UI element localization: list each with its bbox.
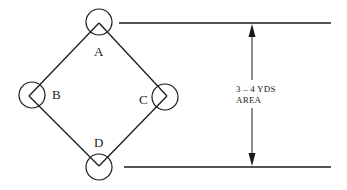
station-label-a: A [94,44,104,59]
station-label-c: C [139,92,148,107]
arrow-head-down-icon [249,153,256,166]
dimension-label-line1: 3 – 4 YDS [236,84,276,94]
station-circle-d [86,154,112,180]
station-label-d: D [94,135,103,150]
edge-d-b [29,96,99,166]
edge-a-c [99,23,167,96]
station-circle-c [152,84,178,110]
station-label-b: B [52,87,61,102]
dimension-label-line2: AREA [236,95,262,105]
station-circle-b [19,82,45,108]
station-circle-a [86,9,112,35]
diamond-drill-diagram: A B C D 3 – 4 YDS AREA [0,0,347,190]
arrow-head-up-icon [249,24,256,37]
